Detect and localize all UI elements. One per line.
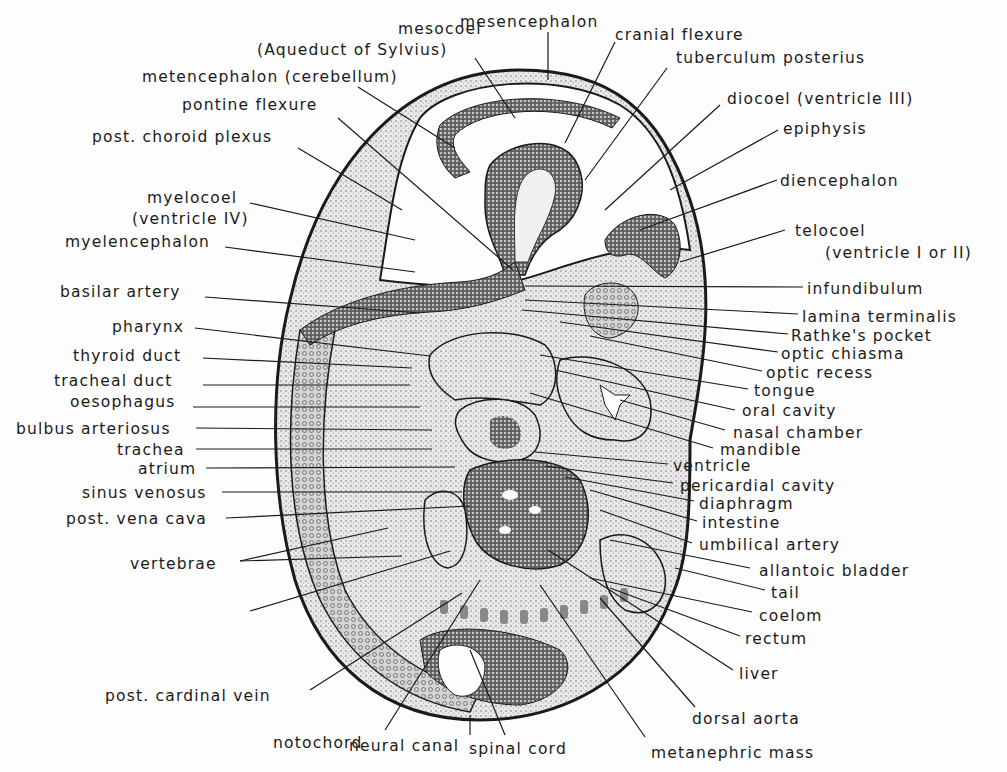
label-pericardial-cavity: pericardial cavity xyxy=(680,477,835,495)
tongue-region xyxy=(429,333,556,405)
label-post-choroid-plexus: post. choroid plexus xyxy=(92,128,272,146)
label-ventricle-iv: (ventricle IV) xyxy=(132,210,249,228)
label-allantoic-bladder: allantoic bladder xyxy=(759,562,909,580)
label-rectum: rectum xyxy=(745,630,807,648)
label-telocoel: telocoel xyxy=(795,222,866,240)
label-post-cardinal-vein: post. cardinal vein xyxy=(105,687,271,705)
label-intestine: intestine xyxy=(702,514,780,532)
embryo-sagittal-section-diagram: mesocoel(Aqueduct of Sylvius)mesencephal… xyxy=(0,0,1007,772)
leader-epiphysis xyxy=(670,130,778,190)
label-lamina-terminalis: lamina terminalis xyxy=(802,308,957,326)
label-epiphysis: epiphysis xyxy=(783,120,867,138)
label-diencephalon: diencephalon xyxy=(780,172,899,190)
label-trachea: trachea xyxy=(117,441,185,459)
label-umbilical-artery: umbilical artery xyxy=(699,536,840,554)
label-metencephalon: metencephalon (cerebellum) xyxy=(142,68,398,86)
label-dorsal-aorta: dorsal aorta xyxy=(692,710,800,728)
label-spinal-cord: spinal cord xyxy=(469,740,567,758)
label-neural-canal: neural canal xyxy=(349,737,459,755)
label-bulbus-arteriosus: bulbus arteriosus xyxy=(16,420,171,438)
label-pharynx: pharynx xyxy=(112,318,184,336)
label-vertebrae: vertebrae xyxy=(130,555,217,573)
label-metanephric-mass: metanephric mass xyxy=(651,744,814,762)
label-tuberculum-posterius: tuberculum posterius xyxy=(676,49,865,67)
label-rathkes-pocket: Rathke's pocket xyxy=(791,327,932,345)
label-cranial-flexure: cranial flexure xyxy=(615,26,744,44)
label-optic-recess: optic recess xyxy=(766,364,873,382)
label-thyroid-duct: thyroid duct xyxy=(73,347,181,365)
label-coelom: coelom xyxy=(759,607,823,625)
label-ventricle: ventricle xyxy=(673,457,751,475)
label-myelencephalon: myelencephalon xyxy=(65,233,210,251)
label-optic-chiasma: optic chiasma xyxy=(781,345,905,363)
label-ventricle-i-or-ii: (ventricle I or II) xyxy=(825,244,972,262)
label-oral-cavity: oral cavity xyxy=(742,402,837,420)
label-tongue: tongue xyxy=(754,382,816,400)
label-tail: tail xyxy=(771,584,800,602)
label-sinus-venosus: sinus venosus xyxy=(82,484,207,502)
label-aqueduct: (Aqueduct of Sylvius) xyxy=(257,41,448,59)
label-oesophagus: oesophagus xyxy=(70,393,175,411)
label-diaphragm: diaphragm xyxy=(699,495,794,513)
label-mesencephalon: mesencephalon xyxy=(460,13,599,31)
leader-tail xyxy=(675,568,765,590)
label-post-vena-cava: post. vena cava xyxy=(66,510,207,528)
label-atrium: atrium xyxy=(138,460,196,478)
label-pontine-flexure: pontine flexure xyxy=(182,96,317,114)
label-diocoel: diocoel (ventricle III) xyxy=(727,90,913,108)
label-tracheal-duct: tracheal duct xyxy=(54,372,172,390)
label-liver: liver xyxy=(739,665,779,683)
label-basilar-artery: basilar artery xyxy=(60,283,181,301)
label-myelocoel: myelocoel xyxy=(147,189,237,207)
label-infundibulum: infundibulum xyxy=(807,280,924,298)
label-nasal-chamber: nasal chamber xyxy=(733,424,863,442)
